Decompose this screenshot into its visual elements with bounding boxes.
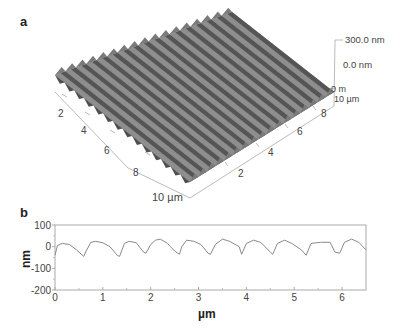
y-tick-label: -100 — [31, 263, 51, 274]
y-tick-6: 6 — [297, 126, 303, 137]
surface-body — [55, 8, 334, 184]
y-tick-8: 8 — [321, 108, 327, 119]
x-tick-6: 6 — [104, 145, 110, 156]
y-tick-2: 2 — [238, 168, 244, 179]
x-tick-label: 1 — [100, 292, 106, 303]
x-tick-4: 4 — [81, 125, 87, 136]
x-tick-8: 8 — [133, 167, 139, 178]
x-tick-label: 3 — [196, 292, 202, 303]
z-label-top: 300.0 nm — [345, 34, 385, 45]
x-axis-ticks: 0123456 — [52, 287, 345, 303]
x-tick-10: 10 µm — [152, 191, 183, 203]
surface-plot-3d: 2 4 6 8 10 µm 2 4 6 8 300.0 nm 0.0 nm 0 … — [0, 0, 402, 210]
y-axis-ticks: 1000-100-200 — [31, 220, 55, 296]
y-tick-4: 4 — [268, 147, 274, 158]
x-tick-2: 2 — [58, 108, 64, 119]
y-tick-label: -200 — [31, 285, 51, 296]
x-axis-label: µm — [198, 307, 216, 321]
z-label-zero: 0.0 nm — [343, 59, 372, 70]
corner-label-10um: 10 µm — [334, 94, 359, 104]
y-tick-label: 0 — [45, 241, 51, 252]
x-tick-label: 0 — [52, 292, 58, 303]
y-axis-label: nm — [19, 250, 33, 268]
x-tick-label: 2 — [148, 292, 154, 303]
plot-frame — [55, 225, 366, 290]
x-tick-label: 4 — [244, 292, 250, 303]
profile-line — [55, 239, 366, 256]
corner-label-origin: 0 m — [331, 84, 346, 94]
x-tick-label: 5 — [291, 292, 297, 303]
y-tick-label: 100 — [34, 220, 51, 231]
x-tick-label: 6 — [339, 292, 345, 303]
